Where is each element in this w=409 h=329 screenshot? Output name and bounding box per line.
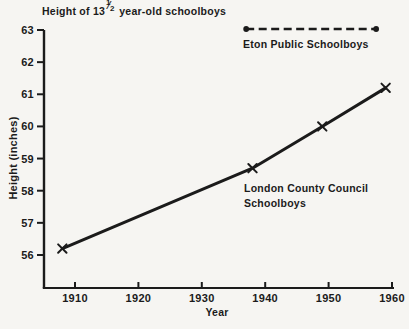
y-tick-label: 62 (21, 56, 34, 68)
chart-title-post: year-old schoolboys (116, 5, 226, 17)
series-label-line-2: Schoolboys (244, 196, 368, 211)
y-tick-label: 63 (21, 24, 34, 36)
chart-title: Height of 131⁄2 year-old schoolboys (42, 4, 226, 17)
x-tick-label: 1930 (189, 292, 215, 304)
y-tick-label: 61 (21, 88, 34, 100)
y-tick-label: 56 (21, 249, 34, 261)
y-tick-label: 60 (21, 120, 34, 132)
series-label-line-1: London County Council (244, 181, 368, 196)
figure: 5657585960616263191019201930194019501960… (0, 0, 409, 329)
one-half-fraction: 1⁄2 (105, 4, 116, 16)
x-axis-label: Year (187, 306, 247, 318)
x-tick-label: 1960 (379, 292, 405, 304)
x-tick-label: 1940 (252, 292, 278, 304)
y-tick-label: 57 (21, 217, 34, 229)
y-tick-label: 59 (21, 153, 34, 165)
y-tick-label: 58 (21, 185, 34, 197)
eton-end-dot (243, 26, 249, 32)
lcc-line (62, 88, 385, 249)
eton-end-dot (373, 26, 379, 32)
y-axis-label: Height (inches) (7, 98, 19, 218)
x-tick-label: 1910 (62, 292, 88, 304)
series-label-london-county-council: London County Council Schoolboys (244, 181, 368, 211)
x-tick-label: 1920 (126, 292, 152, 304)
x-tick-label: 1950 (316, 292, 342, 304)
series-label-eton: Eton Public Schoolboys (243, 38, 369, 50)
chart-title-pre: Height of 13 (42, 5, 105, 17)
